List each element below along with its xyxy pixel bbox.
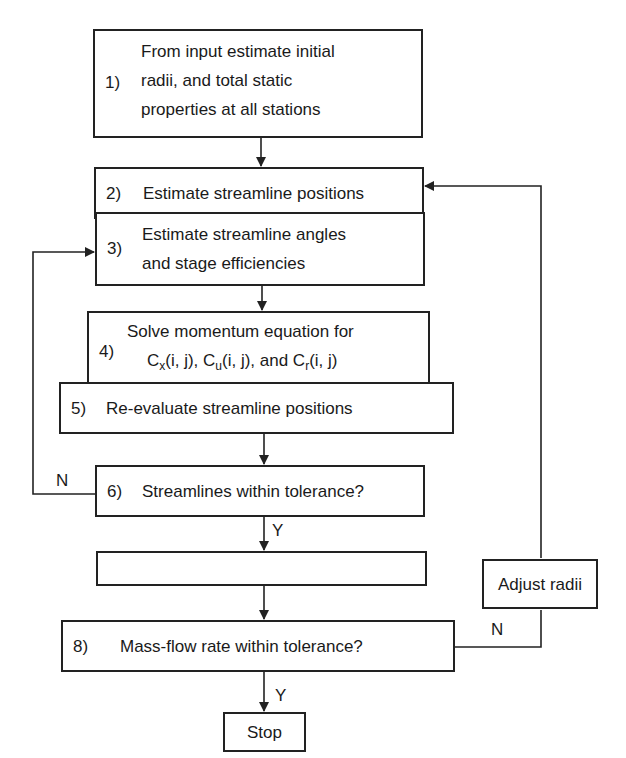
- label-n-step8: N: [491, 620, 503, 640]
- label-n-step6: N: [56, 471, 68, 491]
- step-7-box: [96, 551, 427, 586]
- step-1-line-1: From input estimate initial: [141, 41, 335, 62]
- step-2-text: Estimate streamline positions: [143, 183, 364, 204]
- step-6-text: Streamlines within tolerance?: [142, 481, 364, 502]
- step-2-number: 2): [106, 183, 121, 204]
- step-1-line-2: radii, and total static: [141, 70, 335, 91]
- label-y-step8: Y: [275, 686, 286, 706]
- step-5-text: Re-evaluate streamline positions: [106, 398, 353, 419]
- step-8-box: 8) Mass-flow rate within tolerance?: [61, 620, 455, 672]
- step-1-number: 1): [105, 72, 120, 93]
- step-8-text: Mass-flow rate within tolerance?: [120, 636, 363, 657]
- step-4-line-2: Cx(i, j), Cu(i, j), and Cr(i, j): [127, 350, 354, 377]
- step-5-box: 5) Re-evaluate streamline positions: [59, 382, 454, 434]
- step-1-line-3: properties at all stations: [141, 99, 335, 120]
- adjust-radii-text: Adjust radii: [498, 574, 582, 595]
- step-1-box: 1) From input estimate initial radii, an…: [93, 29, 423, 138]
- step-4-line-1: Solve momentum equation for: [127, 321, 354, 342]
- stop-text: Stop: [247, 722, 282, 743]
- step-3-line-1: Estimate streamline angles: [142, 224, 346, 245]
- step-3-box: 3) Estimate streamline angles and stage …: [95, 212, 425, 286]
- step-4-box: 4) Solve momentum equation for Cx(i, j),…: [87, 311, 430, 387]
- step-5-number: 5): [71, 398, 86, 419]
- label-y-step6: Y: [272, 521, 283, 541]
- step-3-line-2: and stage efficiencies: [142, 253, 346, 274]
- stop-box: Stop: [223, 712, 306, 752]
- step-8-number: 8): [73, 636, 88, 657]
- step-3-number: 3): [107, 238, 122, 259]
- step-6-box: 6) Streamlines within tolerance?: [95, 465, 425, 517]
- adjust-radii-box: Adjust radii: [482, 559, 598, 609]
- step-6-number: 6): [107, 481, 122, 502]
- step-4-number: 4): [99, 341, 114, 362]
